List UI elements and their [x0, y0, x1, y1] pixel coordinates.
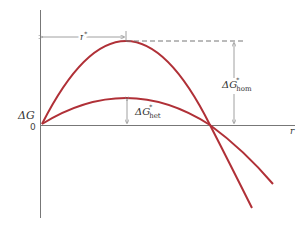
nucleation-diagram: ΔG 0 r r* ΔG*hom ΔG*het	[0, 0, 301, 231]
dg-hom-label: ΔG*hom	[221, 76, 252, 93]
homogeneous-curve	[42, 41, 252, 208]
y-axis-label: ΔG	[17, 109, 35, 122]
dg-het-label: ΔG*het	[134, 103, 161, 120]
r-star-label: r*	[80, 30, 87, 42]
origin-label: 0	[30, 122, 36, 132]
heterogeneous-curve	[42, 98, 273, 184]
x-axis-label: r	[290, 126, 295, 136]
